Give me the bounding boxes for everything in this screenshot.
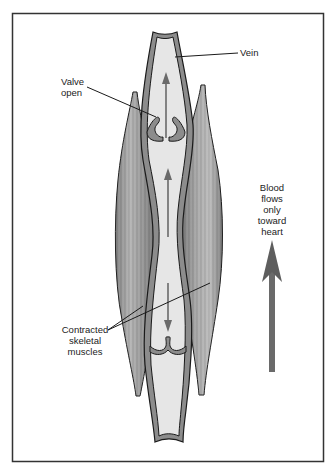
flow-label-line3: only [247, 204, 297, 215]
valve-label-line2: open [61, 87, 84, 98]
flow-label-line5: heart [247, 226, 297, 237]
muscles-label-line3: muscles [50, 346, 120, 357]
contracted-muscles-label: Contracted skeletal muscles [50, 324, 120, 357]
blood-flow-label: Blood flows only toward heart [247, 182, 297, 237]
muscles-label-line2: skeletal [50, 335, 120, 346]
muscles-label-line1: Contracted [50, 324, 120, 335]
flow-label-line4: toward [247, 215, 297, 226]
vein-label: Vein [240, 47, 259, 58]
valve-label-line1: Valve [61, 76, 84, 87]
flow-label-line1: Blood [247, 182, 297, 193]
flow-label-line2: flows [247, 193, 297, 204]
vein-valve-diagram: Vein Valve open Contracted skeletal musc… [0, 0, 334, 474]
valve-open-label: Valve open [61, 76, 84, 98]
